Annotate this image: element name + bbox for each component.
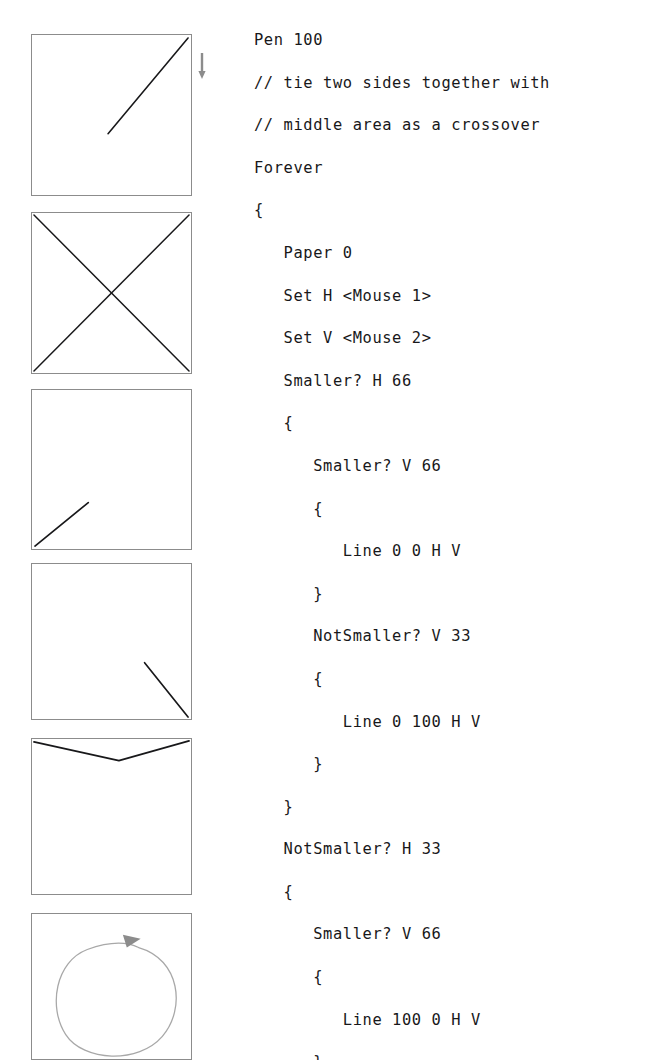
canvas-drawing-bottom-left-stub	[32, 390, 191, 549]
code-line-19: }	[254, 797, 664, 818]
code-line-23: {	[254, 967, 664, 988]
code-line-3: // middle area as a crossover	[254, 115, 664, 136]
code-line-4: Forever	[254, 158, 664, 179]
code-line-14: }	[254, 584, 664, 605]
canvas-panel-6[interactable]	[31, 913, 192, 1060]
canvas-panel-3[interactable]	[31, 389, 192, 550]
code-pane: Pen 100 // tie two sides together with /…	[254, 30, 664, 1060]
code-line-7: Set H <Mouse 1>	[254, 286, 664, 307]
canvas-panel-5[interactable]	[31, 738, 192, 895]
code-line-22: Smaller? V 66	[254, 924, 664, 945]
code-line-2: // tie two sides together with	[254, 73, 664, 94]
canvas-panel-2[interactable]	[31, 212, 192, 374]
canvas-drawing-circular-arrow	[32, 914, 191, 1059]
code-line-5: {	[254, 200, 664, 221]
code-line-21: {	[254, 882, 664, 903]
canvas-preview-column	[0, 0, 240, 1060]
screenshot-root: Pen 100 // tie two sides together with /…	[0, 0, 670, 1060]
code-line-20: NotSmaller? H 33	[254, 839, 664, 860]
code-line-10: {	[254, 413, 664, 434]
canvas-drawing-bottom-right-stub	[32, 564, 191, 719]
code-line-9: Smaller? H 66	[254, 371, 664, 392]
code-line-1: Pen 100	[254, 30, 664, 51]
code-line-12: {	[254, 499, 664, 520]
canvas-panel-1[interactable]	[31, 34, 192, 196]
code-line-18: }	[254, 754, 664, 775]
code-line-13: Line 0 0 H V	[254, 541, 664, 562]
code-line-11: Smaller? V 66	[254, 456, 664, 477]
down-arrow-marker-icon	[196, 52, 208, 80]
code-line-17: Line 0 100 H V	[254, 712, 664, 733]
canvas-drawing-diagonal-top-right	[32, 35, 191, 195]
code-line-8: Set V <Mouse 2>	[254, 328, 664, 349]
canvas-panel-4[interactable]	[31, 563, 192, 720]
code-line-16: {	[254, 669, 664, 690]
canvas-drawing-full-x	[32, 213, 191, 373]
code-line-25: }	[254, 1052, 664, 1060]
code-line-15: NotSmaller? V 33	[254, 626, 664, 647]
code-line-6: Paper 0	[254, 243, 664, 264]
code-line-24: Line 100 0 H V	[254, 1010, 664, 1031]
code-listing[interactable]: Pen 100 // tie two sides together with /…	[254, 30, 664, 1060]
canvas-drawing-shallow-v	[32, 739, 191, 894]
